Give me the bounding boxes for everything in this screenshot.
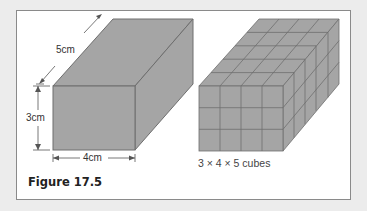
width-label: 4cm bbox=[83, 152, 102, 163]
depth-label: 5cm bbox=[56, 44, 75, 55]
solid-cuboid bbox=[53, 19, 193, 150]
cuboid-front-face bbox=[53, 86, 135, 150]
figure-title: Figure 17.5 bbox=[28, 175, 102, 189]
cubes-caption: 3 × 4 × 5 cubes bbox=[198, 157, 270, 169]
height-label: 3cm bbox=[26, 112, 45, 123]
cube-grid-cuboid bbox=[199, 19, 339, 151]
